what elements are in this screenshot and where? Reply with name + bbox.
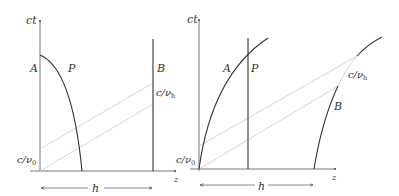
right-ct-label: ct	[187, 13, 198, 26]
left-freq-high-label: c/νh	[156, 87, 175, 100]
left-distance-label: h	[92, 182, 99, 195]
left-signal-line-lower	[40, 104, 153, 171]
left-signal-line-upper	[40, 83, 153, 149]
left-z-axis-tip	[174, 170, 176, 172]
right-z-axis-tip	[334, 168, 336, 170]
right-distance-label: h	[258, 180, 265, 193]
right-curve-B-upper	[357, 37, 382, 56]
left-z-label: z	[173, 175, 179, 184]
left-label-B: B	[156, 62, 165, 75]
right-label-B: B	[333, 100, 342, 113]
right-signal-line-lower	[199, 86, 338, 169]
right-label-P: P	[250, 62, 259, 75]
right-ct-axis-tip	[198, 19, 200, 21]
right-label-A: A	[222, 62, 231, 75]
spacetime-diagram: ct z A P B c/νh c/ν0 h ct z A P B	[0, 0, 399, 196]
right-z-label: z	[331, 173, 337, 182]
left-ct-axis-tip	[39, 20, 41, 22]
left-label-P: P	[67, 62, 76, 75]
right-freq-high-label: c/νh	[348, 69, 367, 82]
left-curve-AP	[40, 55, 82, 171]
left-label-A: A	[29, 62, 38, 75]
right-curve-A	[199, 38, 268, 169]
left-freq-low-label: c/ν0	[17, 154, 36, 167]
right-freq-low-label: c/ν0	[176, 154, 195, 167]
left-panel: ct z A P B c/νh c/ν0 h	[17, 14, 179, 195]
right-panel: ct z A P B c/νh c/ν0 h	[176, 13, 382, 193]
left-ct-label: ct	[26, 14, 37, 27]
